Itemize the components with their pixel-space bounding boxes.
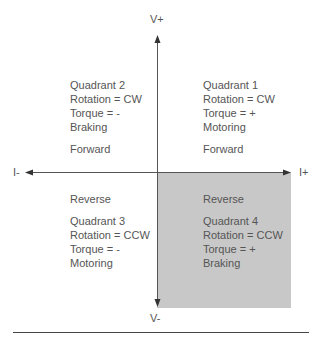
quadrant-4-torque: Torque = + [203, 242, 283, 256]
quadrant-1-torque: Torque = + [203, 106, 275, 120]
quadrant-2-torque: Torque = - [70, 106, 142, 120]
arrow-up-icon [155, 35, 161, 43]
quadrant-3-rotation: Rotation = CCW [70, 228, 150, 242]
quadrant-4-title: Quadrant 4 [203, 214, 283, 228]
axis-label-i-minus: I- [13, 166, 20, 179]
quadrant-1-rotation: Rotation = CW [203, 92, 275, 106]
quadrant-4-text: Reverse Quadrant 4 Rotation = CCW Torque… [203, 192, 283, 270]
arrow-right-icon [283, 170, 291, 176]
quadrant-3-direction: Reverse [70, 192, 150, 206]
arrow-down-icon [155, 299, 161, 307]
axes [0, 0, 321, 339]
quadrant-3-torque: Torque = - [70, 242, 150, 256]
quadrant-1-title: Quadrant 1 [203, 78, 275, 92]
quadrant-4-mode: Braking [203, 256, 283, 270]
quadrant-1-text: Quadrant 1 Rotation = CW Torque = + Moto… [203, 78, 275, 156]
quadrant-2-rotation: Rotation = CW [70, 92, 142, 106]
quadrant-3-title: Quadrant 3 [70, 214, 150, 228]
axis-label-v-minus: V- [150, 312, 160, 325]
bottom-rule [13, 332, 309, 333]
arrow-left-icon [25, 170, 33, 176]
axis-label-v-plus: V+ [150, 13, 164, 26]
quadrant-2-text: Quadrant 2 Rotation = CW Torque = - Brak… [70, 78, 142, 156]
axis-label-i-plus: I+ [299, 166, 308, 179]
quadrant-4-rotation: Rotation = CCW [203, 228, 283, 242]
quadrant-3-mode: Motoring [70, 256, 150, 270]
quadrant-4-direction: Reverse [203, 192, 283, 206]
quadrant-2-mode: Braking [70, 120, 142, 134]
quadrant-2-direction: Forward [70, 142, 142, 156]
quadrant-2-title: Quadrant 2 [70, 78, 142, 92]
quadrant-1-mode: Motoring [203, 120, 275, 134]
quadrant-1-direction: Forward [203, 142, 275, 156]
quadrant-3-text: Reverse Quadrant 3 Rotation = CCW Torque… [70, 192, 150, 270]
